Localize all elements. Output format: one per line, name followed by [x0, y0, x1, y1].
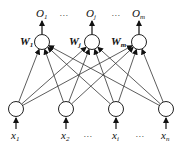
connection-line	[45, 50, 64, 102]
input-label-2: x2	[60, 129, 70, 143]
input-labels: x1 x2 … xi … xn	[10, 129, 170, 143]
connection-line	[19, 49, 39, 102]
neural-network-diagram: O1 … Oj … Om W1 Wj Wm x1 x2 … xi … xn	[0, 0, 180, 144]
weight-label-j: Wj	[69, 35, 81, 49]
input-label-n: xn	[160, 129, 170, 143]
output-labels: O1 … Oj … Om	[36, 7, 145, 21]
connection-line	[98, 47, 161, 104]
output-node-1	[35, 35, 50, 50]
input-layer	[9, 102, 174, 117]
input-label-i: xi	[111, 129, 119, 143]
connection-line	[48, 47, 111, 104]
output-ellipsis-1: …	[60, 8, 68, 18]
output-label-j: Oj	[86, 7, 96, 21]
input-node-n	[159, 102, 174, 117]
connection-line	[72, 47, 134, 104]
weight-label-1: W1	[20, 35, 33, 49]
input-node-2	[59, 102, 74, 117]
input-label-1: x1	[10, 129, 19, 143]
connection-line	[49, 46, 159, 106]
connection-line	[142, 49, 163, 102]
connection-line	[118, 50, 136, 102]
output-node-m	[132, 35, 147, 50]
input-ellipsis-1: …	[84, 129, 92, 139]
input-arrows	[16, 118, 166, 129]
weight-label-m: Wm	[111, 35, 127, 49]
output-ellipsis-2: …	[112, 8, 120, 18]
output-arrows	[42, 21, 139, 34]
connection-lines	[19, 46, 163, 106]
input-ellipsis-2: …	[136, 129, 144, 139]
output-node-j	[85, 35, 100, 50]
network-svg: O1 … Oj … Om W1 Wj Wm x1 x2 … xi … xn	[0, 0, 180, 144]
input-node-1	[9, 102, 24, 117]
output-label-1: O1	[36, 7, 47, 21]
input-node-i	[109, 102, 124, 117]
output-label-m: Om	[132, 7, 145, 21]
